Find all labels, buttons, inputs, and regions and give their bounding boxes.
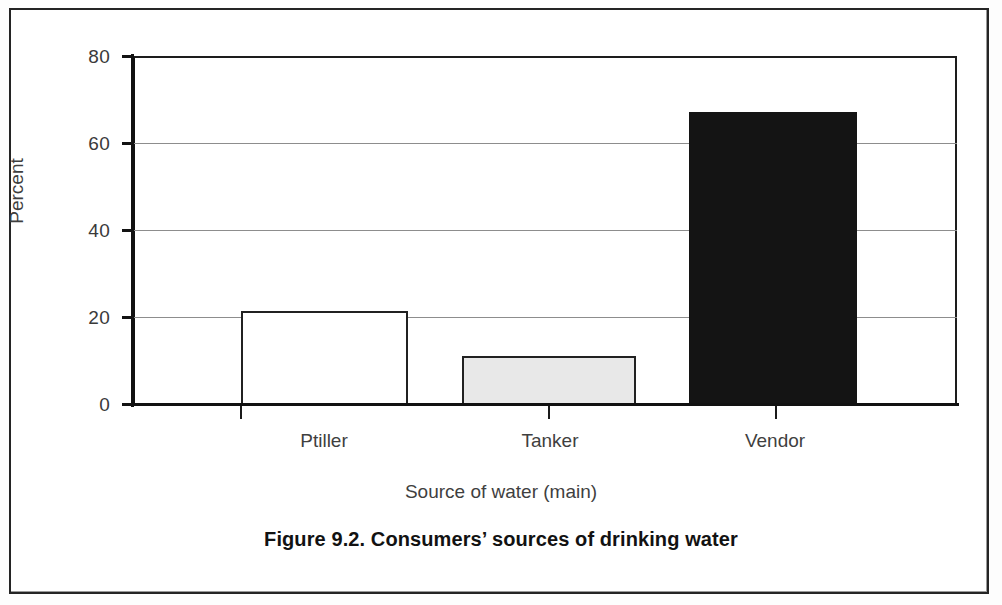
x-tick-mark-vendor <box>775 406 777 419</box>
y-axis-spine <box>131 54 134 407</box>
x-tick-mark-tanker <box>548 406 550 419</box>
x-tick-label-vendor: Vendor <box>745 430 805 452</box>
y-tick-label-40: 40 <box>40 220 110 242</box>
plot-area <box>133 56 957 405</box>
y-tick-label-80: 80 <box>40 46 110 68</box>
x-axis-title: Source of water (main) <box>0 481 1002 503</box>
bar-tanker <box>462 356 636 405</box>
x-tick-label-tanker: Tanker <box>521 430 578 452</box>
x-axis-spine <box>131 403 959 406</box>
y-tick-label-0: 0 <box>40 394 110 416</box>
y-axis-title: Percent <box>6 158 28 223</box>
x-tick-mark-ptiller <box>240 406 242 419</box>
y-tick-label-20: 20 <box>40 307 110 329</box>
y-tick-label-60: 60 <box>40 133 110 155</box>
bar-ptiller <box>241 311 408 405</box>
bar-vendor <box>689 112 857 405</box>
x-tick-label-ptiller: Ptiller <box>300 430 348 452</box>
figure-root: 80 60 40 20 0 Percent Ptiller Tanker Ven… <box>0 0 1002 605</box>
figure-caption: Figure 9.2. Consumers’ sources of drinki… <box>0 528 1002 551</box>
